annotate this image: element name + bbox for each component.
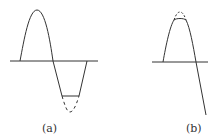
panel-b-waveform [163, 19, 206, 116]
panel-a-clipped-trough-dashed [62, 96, 79, 112]
panel-a [10, 10, 98, 112]
panel-b [152, 12, 208, 115]
panel-b-label: (b) [186, 123, 202, 135]
panel-a-label: (a) [42, 123, 57, 135]
panel-a-waveform [20, 10, 87, 96]
clipping-waveform-diagram [0, 0, 208, 139]
